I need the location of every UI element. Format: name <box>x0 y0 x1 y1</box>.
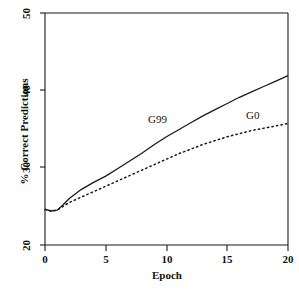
series-label-g0: G0 <box>246 110 259 121</box>
y-axis-ticks <box>40 13 45 245</box>
x-tick-label-5: 5 <box>96 254 116 265</box>
x-tick-label-20: 20 <box>276 254 299 265</box>
y-axis-title: % Correct Predictions <box>19 62 30 202</box>
series-line-g99 <box>45 76 288 211</box>
line-chart-plot <box>0 0 299 289</box>
x-tick-label-15: 15 <box>215 254 239 265</box>
chart-figure: 50 40 30 20 0 5 10 15 20 % Correct Predi… <box>0 0 299 289</box>
axis-spines <box>45 13 288 245</box>
x-axis-title: Epoch <box>45 270 289 281</box>
x-tick-label-10: 10 <box>155 254 179 265</box>
series-label-g99: G99 <box>148 114 167 125</box>
y-tick-label-50: 50 <box>21 4 32 24</box>
x-axis-ticks <box>45 245 288 251</box>
y-tick-label-20: 20 <box>21 236 32 256</box>
x-tick-label-0: 0 <box>35 254 55 265</box>
